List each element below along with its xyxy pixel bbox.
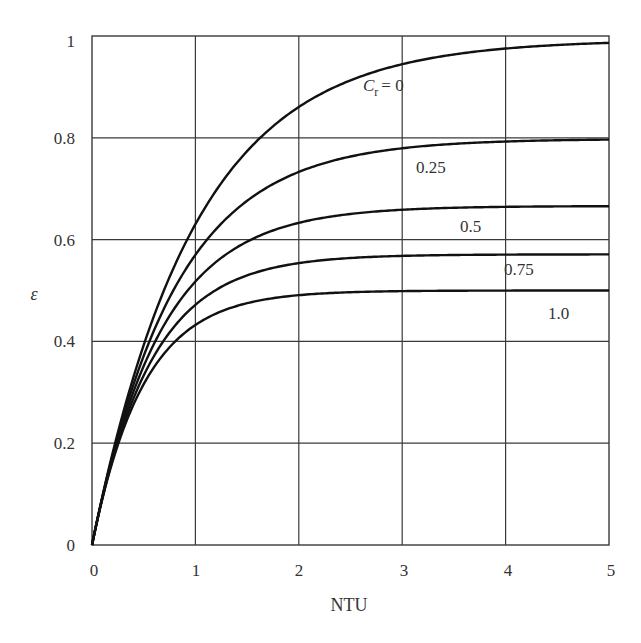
x-tick-3: 3 <box>400 561 409 580</box>
x-tick-1: 1 <box>192 561 201 580</box>
x-tick-0: 0 <box>90 561 99 580</box>
curve-label-cr-0: Cr= 0 <box>363 76 404 99</box>
x-tick-5: 5 <box>607 561 616 580</box>
y-tick-0.2: 0.2 <box>54 434 75 453</box>
cr-equals-zero: = 0 <box>381 76 403 95</box>
x-tick-2: 2 <box>295 561 304 580</box>
curve-label-cr-1.0: 1.0 <box>548 304 569 323</box>
y-tick-1: 1 <box>67 32 76 51</box>
curve-cr-0 <box>92 43 609 545</box>
effectiveness-ntu-chart: 0 0.2 0.4 0.6 0.8 1 0 1 2 3 4 5 NTU ε Cr… <box>0 0 641 643</box>
curve-label-cr-0.25: 0.25 <box>416 158 446 177</box>
y-tick-0.4: 0.4 <box>54 332 76 351</box>
curve-label-cr-0.75: 0.75 <box>504 260 534 279</box>
y-tick-0.6: 0.6 <box>54 231 75 250</box>
y-axis-label: ε <box>30 284 38 304</box>
cr-subscript: r <box>374 85 378 99</box>
curve-label-cr-0.5: 0.5 <box>460 217 481 236</box>
x-tick-4: 4 <box>504 561 513 580</box>
y-tick-0: 0 <box>67 536 76 555</box>
curves <box>92 43 609 545</box>
curve-cr-1.0 <box>92 291 609 545</box>
y-tick-0.8: 0.8 <box>54 129 75 148</box>
x-axis-label: NTU <box>331 595 368 615</box>
curve-cr-0.25 <box>92 140 609 545</box>
cr-symbol: C <box>363 76 375 95</box>
